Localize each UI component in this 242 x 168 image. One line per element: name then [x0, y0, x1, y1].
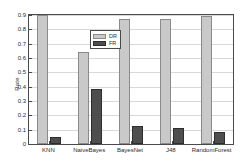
legend-item-fr: FR — [93, 40, 117, 46]
bar-group — [29, 15, 70, 144]
bar-dr-randomforest — [201, 16, 212, 144]
x-tick-mark — [49, 141, 50, 144]
bars-layer — [29, 15, 233, 144]
bar-fr-bayesnet — [132, 126, 143, 144]
y-tick-label: 0.7 — [18, 41, 26, 47]
legend-swatch-dr — [93, 34, 106, 39]
x-tick-mark — [131, 141, 132, 144]
x-tick-label-j48: J48 — [166, 147, 176, 153]
bar-dr-j48 — [160, 19, 171, 144]
x-tick-mark — [90, 141, 91, 144]
bar-group — [151, 15, 192, 144]
y-tick-label: 0.9 — [18, 12, 26, 18]
x-tick-mark — [172, 141, 173, 144]
x-tick-label-knn: KNN — [42, 147, 55, 153]
plot-area: 00.10.20.30.40.50.60.70.80.9 DR FR — [28, 14, 234, 145]
legend-label-fr: FR — [109, 40, 116, 46]
bar-group — [192, 15, 233, 144]
bar-chart-figure: Rate 00.10.20.30.40.50.60.70.80.9 DR FR … — [0, 0, 242, 168]
legend-label-dr: DR — [109, 33, 117, 39]
bar-dr-knn — [37, 15, 48, 144]
x-tick-label-naivebayes: NaiveBayes — [73, 147, 105, 153]
y-tick-label: 0.5 — [18, 69, 26, 75]
y-tick-label: 0.8 — [18, 26, 26, 32]
legend-swatch-fr — [93, 41, 106, 46]
x-tick-mark — [213, 141, 214, 144]
y-tick-label: 0.3 — [18, 98, 26, 104]
y-tick-mark — [29, 144, 32, 145]
bar-fr-naivebayes — [91, 89, 102, 144]
x-tick-label-bayesnet: BayesNet — [117, 147, 143, 153]
legend: DR FR — [90, 30, 121, 49]
y-tick-label: 0 — [23, 141, 26, 147]
bar-dr-naivebayes — [78, 52, 89, 144]
bar-fr-randomforest — [214, 132, 225, 144]
bar-fr-knn — [50, 137, 61, 144]
y-tick-label: 0.6 — [18, 55, 26, 61]
bar-fr-j48 — [173, 128, 184, 144]
legend-item-dr: DR — [93, 33, 117, 39]
y-tick-label: 0.2 — [18, 112, 26, 118]
y-tick-label: 0.1 — [18, 127, 26, 133]
y-tick-label: 0.4 — [18, 84, 26, 90]
x-tick-label-randomforest: RandomForest — [192, 147, 232, 153]
